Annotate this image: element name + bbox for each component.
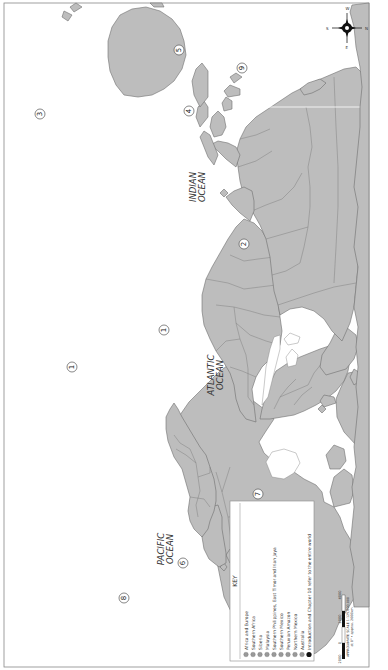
key-item-2: Southern Africa — [251, 616, 256, 657]
key-item-6: Southern Mexico — [279, 613, 284, 657]
key-title: KEY — [231, 575, 238, 587]
svg-text:4000: 4000 — [338, 591, 342, 600]
svg-text:2000: 2000 — [338, 615, 342, 624]
key-item-7: Peruvian Amazon — [286, 612, 291, 657]
ocean-label-atlantic-line2: OCEAN — [215, 359, 225, 390]
svg-text:0: 0 — [338, 642, 342, 644]
ocean-label-indian: INDIAN OCEAN — [188, 171, 207, 202]
svg-text:Introduction and Chapter 10 re: Introduction and Chapter 10 refer to the… — [307, 534, 312, 650]
svg-text:1: 1 — [68, 365, 76, 369]
region-marker-6[interactable]: 6 — [178, 558, 188, 568]
key-item-4: Malaysia — [265, 631, 270, 657]
svg-text:8: 8 — [120, 596, 128, 600]
region-marker-9[interactable]: 9 — [237, 63, 247, 73]
svg-text:6: 6 — [179, 560, 187, 565]
region-marker-7[interactable]: 7 — [253, 489, 263, 499]
ocean-label-indian-line2: OCEAN — [197, 171, 207, 202]
region-marker-5[interactable]: 5 — [174, 45, 184, 55]
globe-icon — [306, 652, 311, 657]
svg-text:at 0° • approx. 2000km: at 0° • approx. 2000km — [350, 607, 354, 646]
region-marker-1-europe[interactable]: 1 — [67, 362, 77, 372]
svg-text:Southern Mexico: Southern Mexico — [279, 613, 284, 650]
svg-text:Southern Africa: Southern Africa — [251, 616, 256, 650]
region-marker-4[interactable]: 4 — [184, 106, 194, 116]
svg-text:4: 4 — [185, 108, 193, 113]
key-footer: Introduction and Chapter 10 refer to the… — [306, 534, 311, 657]
key-item-1: Africa and Europe — [244, 611, 249, 657]
region-marker-8[interactable]: 8 — [119, 593, 129, 603]
key-item-8: Northern Mexico — [293, 613, 298, 656]
svg-text:Siberia: Siberia — [258, 634, 263, 650]
svg-text:Southern Philippines, East Tim: Southern Philippines, East Timor and Iri… — [272, 547, 277, 650]
svg-text:2000: 2000 — [338, 655, 342, 664]
svg-text:2: 2 — [240, 242, 248, 246]
svg-text:9: 9 — [238, 66, 246, 70]
world-map: PACIFIC OCEAN ATLANTIC OCEAN INDIAN OCEA… — [0, 0, 388, 670]
key-item-3: Siberia — [258, 634, 263, 656]
svg-text:7: 7 — [254, 492, 262, 496]
key-item-9: Australia — [300, 630, 305, 657]
compass-north: N — [365, 26, 368, 31]
svg-text:Northern Mexico: Northern Mexico — [293, 613, 298, 650]
map-key: KEY Africa and Europe Southern Africa Si… — [230, 501, 314, 661]
compass-west: W — [346, 6, 350, 11]
svg-text:5: 5 — [175, 48, 183, 52]
region-marker-1-africa[interactable]: 1 — [159, 325, 169, 335]
ocean-label-pacific-line2: OCEAN — [165, 533, 175, 564]
region-marker-2[interactable]: 2 — [239, 239, 249, 249]
svg-text:Malaysia: Malaysia — [265, 631, 270, 650]
svg-text:1: 1 — [160, 328, 168, 332]
ocean-label-atlantic: ATLANTIC OCEAN — [206, 354, 225, 396]
svg-text:Africa and Europe: Africa and Europe — [244, 611, 249, 650]
region-marker-3[interactable]: 3 — [35, 109, 45, 119]
svg-text:3: 3 — [36, 112, 44, 116]
ocean-label-pacific: PACIFIC OCEAN — [156, 533, 175, 565]
svg-text:Peruvian Amazon: Peruvian Amazon — [286, 612, 291, 650]
key-item-5: Southern Philippines, East Timor and Iri… — [272, 547, 277, 657]
svg-text:Australia: Australia — [300, 630, 305, 650]
